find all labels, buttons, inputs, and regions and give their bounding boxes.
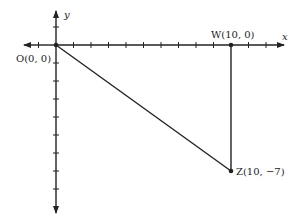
point-Z bbox=[229, 169, 234, 174]
y-axis-label: y bbox=[63, 9, 70, 20]
label-W: W(10, 0) bbox=[211, 29, 255, 40]
coordinate-plane: x y O(0, 0) W(10, 0) Z(10, −7) bbox=[0, 0, 301, 224]
segment-OZ bbox=[56, 45, 231, 171]
label-Z: Z(10, −7) bbox=[236, 166, 285, 177]
point-O bbox=[54, 43, 59, 48]
label-O: O(0, 0) bbox=[16, 53, 51, 64]
x-axis-label: x bbox=[282, 31, 288, 42]
point-W bbox=[229, 43, 234, 48]
